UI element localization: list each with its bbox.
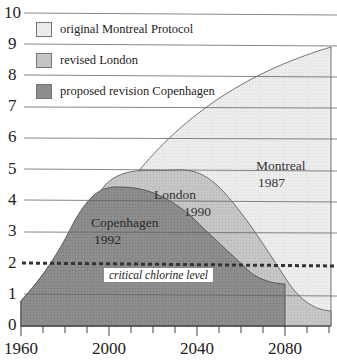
legend-item-copenhagen: proposed revision Copenhagen xyxy=(36,81,215,101)
legend-swatch-dark xyxy=(36,84,52,99)
montreal-year: 1987 xyxy=(256,175,306,192)
london-annotation: London 1990 xyxy=(154,187,211,221)
legend-item-london: revised London xyxy=(36,50,138,70)
legend-label: revised London xyxy=(60,53,138,68)
x-tick-2080: 2080 xyxy=(268,340,302,357)
london-name: London xyxy=(154,187,211,204)
copenhagen-name: Copenhagen xyxy=(91,215,158,232)
legend-label: original Montreal Protocol xyxy=(60,22,193,37)
legend-label: proposed revision Copenhagen xyxy=(60,84,215,99)
legend-swatch-light xyxy=(36,22,52,37)
y-tick-2: 2 xyxy=(8,254,17,271)
y-tick-1: 1 xyxy=(8,285,17,302)
critical-level-label: critical chlorine level xyxy=(104,268,213,282)
x-tick-2040: 2040 xyxy=(180,340,214,357)
x-tick-1960: 1960 xyxy=(4,340,38,357)
y-tick-0: 0 xyxy=(8,316,17,333)
y-tick-6: 6 xyxy=(8,128,17,145)
montreal-name: Montreal xyxy=(256,158,306,175)
y-tick-10: 10 xyxy=(4,4,21,21)
london-year: 1990 xyxy=(154,204,211,221)
copenhagen-year: 1992 xyxy=(91,232,158,249)
y-tick-5: 5 xyxy=(8,160,17,177)
legend-swatch-mid xyxy=(36,53,52,68)
legend-item-montreal: original Montreal Protocol xyxy=(36,19,193,39)
y-tick-7: 7 xyxy=(8,97,17,114)
copenhagen-annotation: Copenhagen 1992 xyxy=(91,215,158,249)
x-axis xyxy=(21,326,331,336)
x-tick-2000: 2000 xyxy=(92,340,126,357)
y-tick-3: 3 xyxy=(8,222,17,239)
y-tick-8: 8 xyxy=(8,66,17,83)
montreal-annotation: Montreal 1987 xyxy=(256,158,306,192)
y-tick-4: 4 xyxy=(8,191,17,208)
y-tick-9: 9 xyxy=(8,35,17,52)
